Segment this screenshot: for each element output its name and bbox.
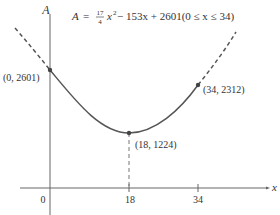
curve-extension-left	[15, 28, 50, 70]
x-tick-label-34: 34	[193, 194, 203, 205]
curve-extension-right	[198, 32, 236, 85]
point-label-0-2601: (0, 2601)	[3, 72, 40, 84]
x-tick-label-0: 0	[41, 194, 46, 205]
x-axis-arrow-icon	[266, 187, 270, 190]
x-tick-label-18: 18	[125, 194, 135, 205]
equation-frac-den: 4	[98, 18, 102, 26]
point-label-34-2312: (34, 2312)	[203, 84, 245, 96]
equation-lhs: A	[71, 10, 79, 22]
equation-rest: − 153x + 2601(0 ≤ x ≤ 34)	[117, 10, 234, 23]
x-axis-label: x	[271, 181, 277, 193]
equation-equals: =	[83, 10, 89, 22]
equation-frac-num: 17	[97, 9, 105, 17]
point-34-2312	[196, 83, 200, 87]
parabola-curve	[50, 70, 198, 133]
point-label-18-1224: (18, 1224)	[135, 139, 177, 151]
equation-title: A = 17 4 x 2 − 153x + 2601(0 ≤ x ≤ 34)	[71, 9, 234, 26]
chart: A x 0 18 34 (0, 2601) (18, 1224) (34, 23…	[0, 0, 280, 215]
point-0-2601	[48, 68, 52, 72]
y-axis-label: A	[41, 3, 50, 17]
point-18-1224	[127, 131, 131, 135]
equation-x: x	[106, 10, 112, 22]
